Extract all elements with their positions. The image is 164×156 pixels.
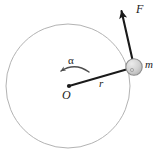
radius-label: r <box>99 78 103 89</box>
angular-acceleration-label: α <box>68 55 74 66</box>
diagram-canvas <box>0 0 164 156</box>
physics-diagram-figure: F m r O α <box>0 0 164 156</box>
angular-acceleration-arc <box>61 67 89 72</box>
mass-ball <box>126 59 142 75</box>
force-vector <box>122 11 134 62</box>
center-label: O <box>62 89 71 101</box>
mass-label: m <box>145 59 153 70</box>
force-label: F <box>136 3 143 15</box>
